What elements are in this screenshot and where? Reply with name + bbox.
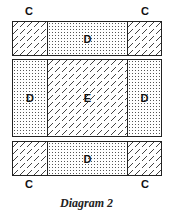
corner-label-bottom-left: C: [25, 179, 33, 190]
bottom-right-square: [127, 142, 161, 175]
corner-label-top-right: C: [141, 6, 149, 17]
top-band: D: [12, 21, 162, 56]
middle-right-strip: D: [127, 60, 161, 136]
bottom-center-strip: D: [47, 142, 127, 175]
middle-band: D E D: [12, 59, 162, 137]
middle-center-square: E: [47, 60, 127, 136]
bottom-left-square: [13, 142, 47, 175]
middle-left-label: D: [25, 92, 35, 104]
middle-left-strip: D: [13, 60, 47, 136]
top-center-label: D: [83, 33, 93, 45]
top-right-square: [127, 22, 161, 55]
corner-label-top-left: C: [25, 6, 33, 17]
middle-center-label: E: [83, 92, 92, 104]
bottom-center-label: D: [83, 153, 93, 165]
diagram-caption: Diagram 2: [0, 196, 173, 211]
top-center-strip: D: [47, 22, 127, 55]
top-left-square: [13, 22, 47, 55]
middle-right-label: D: [140, 92, 150, 104]
bottom-band: D: [12, 141, 162, 176]
corner-label-bottom-right: C: [141, 179, 149, 190]
